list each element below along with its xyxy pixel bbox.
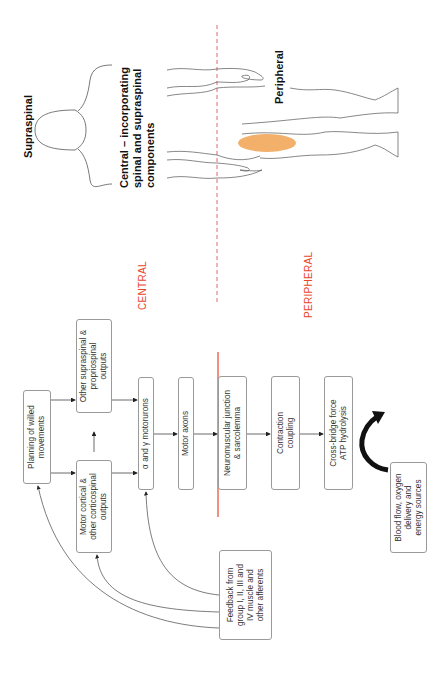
cross-bridge-text: Cross-bridge force ATP hydrolysis [324, 376, 353, 490]
muscle-highlight [238, 134, 296, 152]
nmj-text: Neuromuscular junction & sarcolemma [218, 376, 247, 490]
feedback-text: Feedback from group I, II, III and IV mu… [219, 550, 272, 640]
leg-outline-icon [242, 88, 398, 124]
contraction-text: Contraction coupling [271, 376, 300, 490]
motor-cortical-text: Motor cortical & other corticospinal out… [76, 460, 112, 553]
motoneurons-text: α and γ motorurons [138, 377, 154, 490]
supraspinal-label: Supraspinal [22, 95, 35, 158]
planning-text: Planning of willed movements [23, 390, 51, 484]
peripheral-region-label: PERIPHERAL [303, 252, 314, 318]
blood-flow-arrow [362, 416, 388, 470]
head-outline-icon [35, 110, 86, 150]
motor-axons-text: Motor axons [178, 377, 194, 490]
central-incorporating-label: Central – incorporating spinal and supra… [118, 58, 157, 188]
blood-flow-text: Blood flow, oxygen delivery and energy s… [390, 462, 427, 553]
peripheral-body-label: Peripheral [273, 50, 286, 104]
central-region-label: CENTRAL [137, 261, 148, 310]
fatigue-diagram: Supraspinal Central – incorporating spin… [0, 0, 440, 688]
other-supraspinal-text: Other supraspinal & propriospinal output… [76, 319, 112, 413]
